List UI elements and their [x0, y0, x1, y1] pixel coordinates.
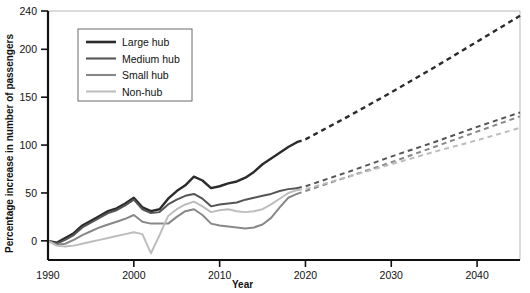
y-tick-label: 240 — [19, 5, 37, 17]
x-axis-title: Year — [232, 279, 253, 290]
y-axis-title: Percentage increase in number of passeng… — [4, 34, 15, 253]
line-chart: 050100150200240199020002010202020302040 … — [0, 0, 530, 293]
legend-label-medium-hub: Medium hub — [122, 53, 180, 65]
chart-container: 050100150200240199020002010202020302040 … — [0, 0, 530, 293]
x-tick-label: 2040 — [465, 269, 489, 281]
x-tick-label: 2000 — [122, 269, 146, 281]
legend-label-large-hub: Large hub — [122, 36, 169, 48]
y-tick-label: 50 — [25, 187, 37, 199]
x-tick-label: 1990 — [36, 269, 60, 281]
y-tick-label: 200 — [19, 43, 37, 55]
y-tick-label: 150 — [19, 91, 37, 103]
x-tick-label: 2030 — [380, 269, 404, 281]
chart-legend: Large hubMedium hubSmall hubNon-hub — [78, 29, 192, 101]
legend-label-non-hub: Non-hub — [122, 86, 162, 98]
y-tick-label: 100 — [19, 139, 37, 151]
y-tick-label: 0 — [31, 235, 37, 247]
legend-label-small-hub: Small hub — [122, 69, 169, 81]
x-tick-label: 2010 — [208, 269, 232, 281]
x-tick-label: 2020 — [294, 269, 318, 281]
